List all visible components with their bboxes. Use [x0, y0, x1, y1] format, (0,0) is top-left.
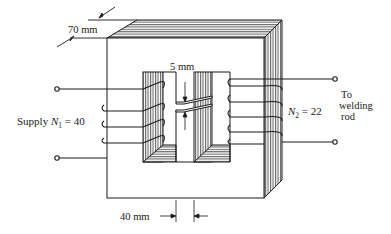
secondary-terminal-top: [333, 77, 337, 81]
gap-label: 5 mm: [170, 61, 194, 72]
core-right-face: [264, 20, 282, 198]
limb-width-dimension: [160, 200, 208, 222]
core: [107, 20, 282, 198]
destination-line-1: To: [341, 89, 352, 100]
depth-label: 70 mm: [68, 24, 97, 35]
destination-line-3: rod: [341, 111, 356, 122]
primary-terminal-top: [55, 87, 59, 91]
transformer-diagram: 70 mm 5 mm 40 mm Supply N1 = 40 N2 = 22 …: [0, 0, 391, 234]
primary-label: Supply N1 = 40: [17, 115, 85, 130]
destination-line-2: welding: [339, 100, 374, 111]
core-top-face: [107, 20, 282, 38]
primary-terminal-bottom: [55, 156, 59, 160]
secondary-terminal-bottom: [333, 140, 337, 144]
limb-width-label: 40 mm: [120, 211, 149, 222]
secondary-label: N2 = 22: [287, 105, 322, 120]
